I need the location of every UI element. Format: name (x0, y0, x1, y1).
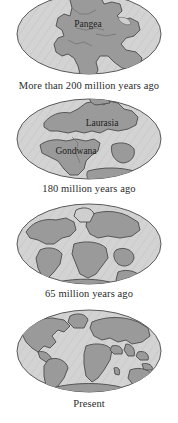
map-label-gondwana: Gondwana (55, 146, 97, 156)
globe-pangea: Pangea (0, 0, 178, 78)
panel-pangea: Pangea More than 200 million years ago (0, 0, 178, 95)
globe-laurasia-gondwana: Laurasia Gondwana (0, 97, 178, 181)
landmass-madagascar (114, 367, 120, 375)
caption-cretaceous: 65 million years ago (0, 288, 178, 299)
globe-present (0, 308, 178, 394)
panel-cretaceous: 65 million years ago (0, 202, 178, 302)
landmass-india (114, 248, 134, 266)
map-label-pangea: Pangea (74, 19, 102, 29)
continental-drift-figure: Pangea More than 200 million years ago (0, 0, 178, 423)
globe-cretaceous (0, 202, 178, 286)
caption-laurasia-gondwana: 180 million years ago (0, 183, 178, 194)
panel-laurasia-gondwana: Laurasia Gondwana 180 million years ago (0, 97, 178, 197)
landmass-antarctica (52, 384, 124, 399)
map-label-laurasia: Laurasia (86, 118, 119, 128)
panel-present: Present (0, 308, 178, 423)
caption-pangea: More than 200 million years ago (0, 80, 178, 91)
caption-present: Present (0, 398, 178, 409)
landmass-north-isle (90, 96, 110, 105)
